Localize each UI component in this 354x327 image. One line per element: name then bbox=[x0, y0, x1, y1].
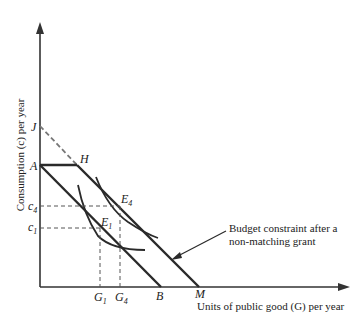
point-e4: E4 bbox=[120, 192, 132, 208]
x-axis-arrow-icon bbox=[338, 283, 350, 291]
tick-c1: c1 bbox=[28, 220, 37, 236]
x-axis-label: Units of public good (G) per year bbox=[197, 300, 345, 313]
point-j: J bbox=[31, 120, 37, 134]
annotation-line-2: non-matching grant bbox=[229, 235, 315, 247]
annotation-line-1: Budget constraint after a bbox=[229, 222, 338, 234]
point-a: A bbox=[29, 159, 38, 173]
annotation-arrow-icon bbox=[171, 252, 182, 260]
annotation-arrow-line bbox=[176, 231, 226, 257]
indifference-curve-e1 bbox=[78, 185, 145, 250]
tick-c4: c4 bbox=[28, 199, 37, 215]
y-axis-arrow-icon bbox=[36, 22, 44, 34]
point-m: M bbox=[194, 287, 206, 301]
new-budget-line bbox=[77, 165, 199, 287]
point-b: B bbox=[156, 289, 164, 303]
y-axis-label: Consumption (c) per year bbox=[14, 98, 27, 211]
point-e1: E1 bbox=[100, 215, 112, 231]
budget-constraint-diagram: Consumption (c) per year J A H E4 E1 c4 … bbox=[0, 0, 354, 327]
tick-g1: G1 bbox=[94, 290, 107, 306]
grant-dashed-segment bbox=[40, 126, 77, 165]
tick-g4: G4 bbox=[115, 290, 128, 306]
point-h: H bbox=[79, 152, 90, 166]
